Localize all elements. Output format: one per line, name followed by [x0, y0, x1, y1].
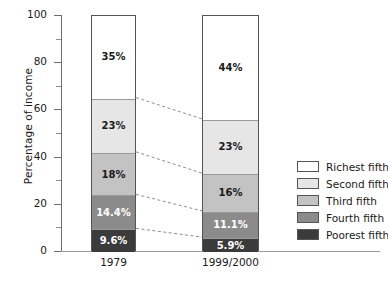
- connector-line-0: [136, 98, 202, 119]
- legend-label: Second fifth: [326, 178, 388, 190]
- y-axis-line: [61, 15, 62, 252]
- y-tick-major-80: [54, 62, 61, 63]
- legend-swatch-icon: [297, 195, 319, 206]
- legend-swatch-icon: [297, 178, 319, 189]
- y-tick-major-20: [54, 204, 61, 205]
- legend-swatch-icon: [297, 161, 319, 172]
- bar-1979[interactable]: 35%23%18%14.4%9.6%: [91, 15, 136, 251]
- segment-value-label: 16%: [219, 188, 243, 198]
- y-tick-minor-30: [56, 180, 61, 181]
- legend-item-poorest-fifth[interactable]: Poorest fifth: [297, 226, 388, 243]
- y-tick-label-20: 20: [7, 198, 47, 209]
- y-tick-major-40: [54, 157, 61, 158]
- y-tick-label-60: 60: [7, 103, 47, 114]
- y-tick-label-100: 100: [7, 9, 47, 20]
- y-tick-label-0: 0: [7, 245, 47, 256]
- segment-value-label: 35%: [102, 52, 126, 62]
- legend-label: Poorest fifth: [326, 229, 388, 241]
- bar-segment-poorest-fifth[interactable]: 9.6%: [92, 229, 135, 252]
- y-tick-minor-10: [56, 227, 61, 228]
- bar-segment-richest-fifth[interactable]: 35%: [92, 16, 135, 99]
- segment-value-label: 44%: [219, 63, 243, 73]
- connector-line-3: [136, 228, 202, 237]
- segment-value-label: 23%: [102, 121, 126, 131]
- legend-label: Fourth fifth: [326, 212, 384, 224]
- y-tick-minor-70: [56, 86, 61, 87]
- y-tick-minor-90: [56, 39, 61, 40]
- segment-value-label: 5.9%: [217, 241, 245, 251]
- bar-segment-fourth-fifth[interactable]: 11.1%: [203, 212, 258, 238]
- stacked-bar-chart: Percentage of income 020406080100 35%23%…: [0, 0, 388, 284]
- bar-segment-third-fifth[interactable]: 16%: [203, 174, 258, 212]
- bar-segment-third-fifth[interactable]: 18%: [92, 153, 135, 195]
- y-tick-major-60: [54, 109, 61, 110]
- y-tick-minor-50: [56, 133, 61, 134]
- segment-value-label: 23%: [219, 142, 243, 152]
- y-tick-major-0: [54, 251, 61, 252]
- legend-label: Richest fifth: [326, 161, 388, 173]
- bar-1999-2000[interactable]: 44%23%16%11.1%5.9%: [202, 15, 259, 251]
- segment-value-label: 11.1%: [213, 220, 248, 230]
- y-tick-label-80: 80: [7, 56, 47, 67]
- y-tick-label-40: 40: [7, 151, 47, 162]
- connector-line-1: [136, 152, 202, 173]
- legend-item-richest-fifth[interactable]: Richest fifth: [297, 158, 388, 175]
- bar-segment-poorest-fifth[interactable]: 5.9%: [203, 238, 258, 252]
- bar-segment-second-fifth[interactable]: 23%: [203, 120, 258, 174]
- bar-segment-second-fifth[interactable]: 23%: [92, 99, 135, 153]
- chart-legend: Richest fifthSecond fifthThird fifthFour…: [297, 158, 388, 243]
- legend-label: Third fifth: [326, 195, 377, 207]
- legend-swatch-icon: [297, 212, 319, 223]
- x-axis-label-1999-2000: 1999/2000: [181, 256, 281, 268]
- x-axis-label-1979: 1979: [64, 256, 164, 268]
- segment-value-label: 18%: [102, 170, 126, 180]
- legend-item-third-fifth[interactable]: Third fifth: [297, 192, 388, 209]
- bar-segment-richest-fifth[interactable]: 44%: [203, 16, 258, 120]
- legend-item-second-fifth[interactable]: Second fifth: [297, 175, 388, 192]
- connector-line-2: [136, 194, 202, 211]
- legend-item-fourth-fifth[interactable]: Fourth fifth: [297, 209, 388, 226]
- y-tick-major-100: [54, 15, 61, 16]
- segment-value-label: 14.4%: [96, 208, 131, 218]
- segment-value-label: 9.6%: [100, 236, 128, 246]
- bar-segment-fourth-fifth[interactable]: 14.4%: [92, 195, 135, 229]
- legend-swatch-icon: [297, 229, 319, 240]
